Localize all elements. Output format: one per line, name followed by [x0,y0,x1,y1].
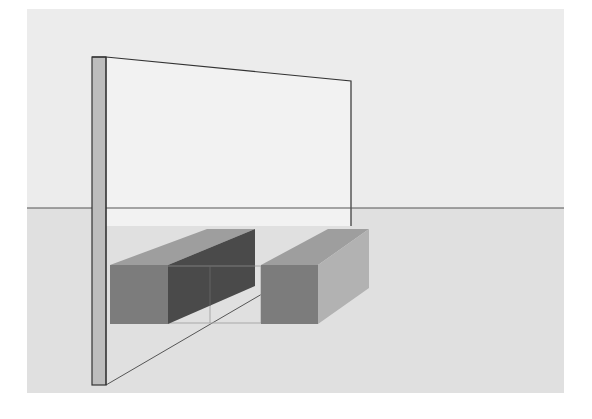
diagram-canvas [0,0,592,419]
left-box-front-face [110,265,168,324]
right-box-front-face [261,265,318,324]
panel-edge-strip [92,57,106,385]
panel-face [106,57,351,226]
